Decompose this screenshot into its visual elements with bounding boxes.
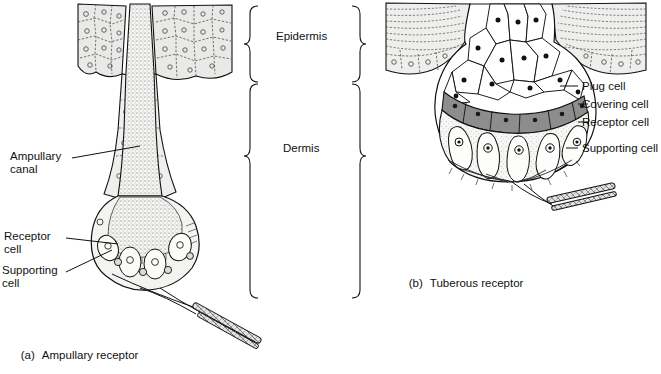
caption-tag-a: (a) (21, 349, 35, 361)
label-dermis: Dermis (283, 142, 319, 155)
label-receptor-cell-a: Receptor cell (4, 230, 51, 256)
caption-panel-a: (a)Ampullary receptor (8, 337, 138, 373)
label-receptor-cell-b: Receptor cell (582, 116, 649, 129)
caption-text-b: Tuberous receptor (430, 277, 524, 289)
epidermis-tissue-a (78, 4, 232, 80)
myelinated-nerve-bundle-b (550, 186, 614, 208)
caption-tag-b: (b) (409, 277, 423, 289)
label-supporting-cell-b: Supporting cell (582, 142, 658, 155)
panel-a-ampullary-receptor (66, 4, 258, 346)
label-ampullary-canal: Ampullary canal (10, 150, 61, 176)
bracket-dermis-right (352, 84, 366, 298)
electroreceptor-figure: Ampullary canal Receptor cell Supporting… (0, 0, 661, 374)
bracket-epidermis-right (352, 6, 366, 82)
diagram-canvas (0, 0, 661, 374)
bracket-epidermis-left (244, 6, 258, 82)
myelinated-nerve-bundle-a (196, 306, 258, 346)
label-plug-cell: Plug cell (582, 80, 625, 93)
label-covering-cell: Covering cell (582, 98, 648, 111)
label-epidermis: Epidermis (276, 30, 327, 43)
bracket-dermis-left (244, 84, 258, 298)
afferent-nerve-b (512, 182, 556, 208)
label-supporting-cell-a: Supporting cell (2, 264, 58, 290)
caption-text-a: Ampullary receptor (42, 349, 139, 361)
caption-panel-b: (b)Tuberous receptor (396, 265, 523, 301)
